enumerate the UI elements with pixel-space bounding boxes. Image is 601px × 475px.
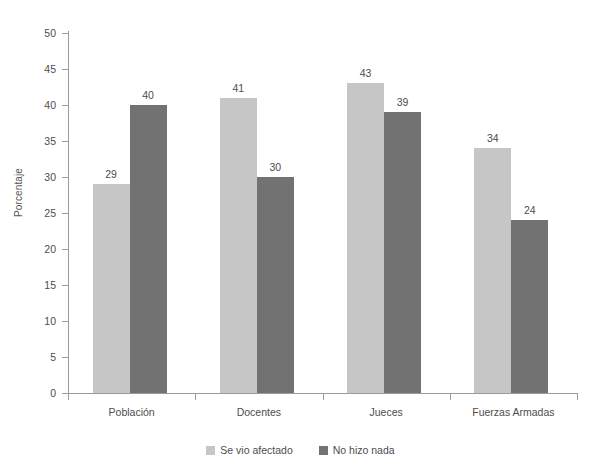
x-axis-category-label: Fuerzas Armadas bbox=[472, 406, 554, 418]
y-axis-label-wrap: 20 bbox=[30, 249, 56, 250]
legend-label: Se vio afectado bbox=[220, 444, 292, 456]
y-axis-tick bbox=[62, 249, 69, 250]
legend-swatch-icon bbox=[319, 446, 328, 455]
x-axis-tick bbox=[577, 393, 578, 400]
y-axis-title: Porcentaje bbox=[13, 153, 24, 233]
y-axis-tick bbox=[62, 177, 69, 178]
legend-swatch-icon bbox=[206, 446, 215, 455]
y-axis-label-wrap: 25 bbox=[30, 213, 56, 214]
bar bbox=[511, 220, 548, 393]
bar bbox=[384, 112, 421, 393]
y-axis-label: 25 bbox=[30, 207, 56, 219]
y-axis-label: 40 bbox=[30, 99, 56, 111]
bar-value-label: 30 bbox=[270, 161, 282, 173]
legend-item[interactable]: Se vio afectado bbox=[206, 444, 292, 456]
bar bbox=[130, 105, 167, 393]
y-axis-label: 15 bbox=[30, 279, 56, 291]
x-axis-category-label: Docentes bbox=[237, 406, 281, 418]
y-axis-label: 30 bbox=[30, 171, 56, 183]
y-axis-tick bbox=[62, 321, 69, 322]
y-axis-tick bbox=[62, 33, 69, 34]
y-axis-label: 50 bbox=[30, 27, 56, 39]
y-axis-tick bbox=[62, 141, 69, 142]
y-axis-label-wrap: 0 bbox=[30, 393, 56, 394]
y-axis-label-wrap: 45 bbox=[30, 69, 56, 70]
y-axis-tick bbox=[62, 285, 69, 286]
bar-value-label: 40 bbox=[142, 89, 154, 101]
bar bbox=[93, 184, 130, 393]
bar-value-label: 39 bbox=[397, 96, 409, 108]
bar-value-label: 34 bbox=[487, 132, 499, 144]
y-axis-tick bbox=[62, 213, 69, 214]
legend-label: No hizo nada bbox=[333, 444, 395, 456]
y-axis-label: 0 bbox=[30, 387, 56, 399]
y-axis-label: 35 bbox=[30, 135, 56, 147]
legend-item[interactable]: No hizo nada bbox=[319, 444, 395, 456]
x-axis-category-label: Jueces bbox=[369, 406, 402, 418]
y-axis-label-wrap: 40 bbox=[30, 105, 56, 106]
y-axis-label: 5 bbox=[30, 351, 56, 363]
bar bbox=[220, 98, 257, 393]
y-axis-label-wrap: 35 bbox=[30, 141, 56, 142]
y-axis-label: 45 bbox=[30, 63, 56, 75]
bar-chart: Porcentaje 05101520253035404550 Població… bbox=[0, 0, 601, 475]
y-axis-label-wrap: 30 bbox=[30, 177, 56, 178]
bar-value-label: 29 bbox=[105, 168, 117, 180]
bar bbox=[474, 148, 511, 393]
bar-value-label: 43 bbox=[360, 67, 372, 79]
x-axis-category-label: Población bbox=[109, 406, 155, 418]
x-axis-tick bbox=[68, 393, 69, 400]
y-axis-label-wrap: 50 bbox=[30, 33, 56, 34]
y-axis-tick bbox=[62, 105, 69, 106]
bar bbox=[347, 83, 384, 393]
y-axis-tick bbox=[62, 357, 69, 358]
x-axis-tick bbox=[195, 393, 196, 400]
bar-value-label: 24 bbox=[524, 204, 536, 216]
bar-value-label: 41 bbox=[233, 82, 245, 94]
bar bbox=[257, 177, 294, 393]
x-axis-tick bbox=[450, 393, 451, 400]
x-axis-tick bbox=[323, 393, 324, 400]
y-axis-label-wrap: 15 bbox=[30, 285, 56, 286]
y-axis-label: 20 bbox=[30, 243, 56, 255]
chart-legend: Se vio afectadoNo hizo nada bbox=[0, 444, 601, 456]
y-axis-tick bbox=[62, 69, 69, 70]
y-axis-label: 10 bbox=[30, 315, 56, 327]
y-axis-label-wrap: 10 bbox=[30, 321, 56, 322]
y-axis-label-wrap: 5 bbox=[30, 357, 56, 358]
